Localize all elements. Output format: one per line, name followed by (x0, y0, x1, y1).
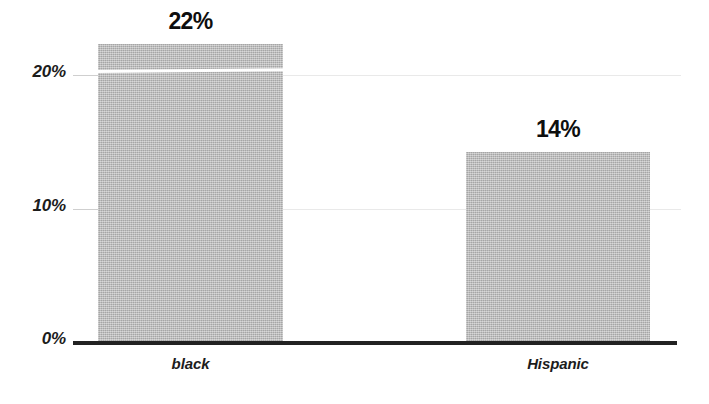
value-label-black: 22% (98, 8, 283, 35)
y-axis-tick-label-20: 20% (4, 62, 66, 82)
x-axis-label-black: black (98, 355, 283, 372)
plot-area: 20% 10% 0% 22% 14% black Hispanic (0, 0, 709, 404)
bar-black (98, 44, 283, 342)
x-axis-line (73, 341, 677, 345)
tick-stub-10-percent (73, 209, 99, 210)
bar-chart: 20% 10% 0% 22% 14% black Hispanic (0, 0, 709, 404)
x-axis-label-hispanic: Hispanic (466, 355, 650, 372)
value-label-hispanic: 14% (466, 116, 650, 143)
bar-hispanic (466, 152, 650, 342)
tick-stub-20-percent (73, 75, 99, 76)
y-axis-tick-label-10: 10% (4, 196, 66, 216)
y-axis-tick-label-0: 0% (4, 329, 66, 349)
